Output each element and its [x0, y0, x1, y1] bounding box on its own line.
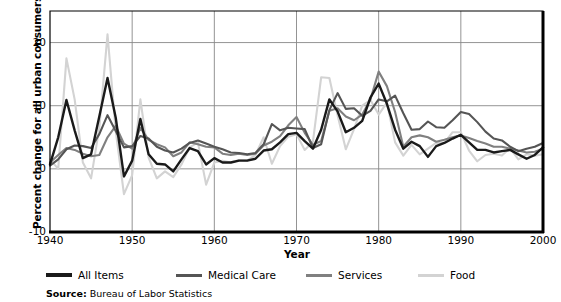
- legend-label: Medical Care: [208, 269, 276, 281]
- source-prefix: Source:: [46, 288, 87, 299]
- legend-swatch-icon: [306, 274, 332, 277]
- legend-label: All Items: [78, 269, 124, 281]
- x-axis-tick-label: 1950: [102, 234, 162, 246]
- legend-swatch-icon: [46, 273, 72, 276]
- source-note: Source: Bureau of Labor Statistics: [46, 288, 212, 299]
- source-text: Bureau of Labor Statistics: [90, 288, 212, 299]
- x-axis-tick-label: 1970: [267, 234, 327, 246]
- legend-item-services[interactable]: Services: [306, 269, 382, 281]
- x-axis-tick-label: 1990: [431, 234, 491, 246]
- x-axis-tick-label: 2000: [513, 234, 561, 246]
- legend-swatch-icon: [418, 274, 444, 277]
- x-axis-tick-label: 1980: [349, 234, 409, 246]
- legend-item-food[interactable]: Food: [418, 269, 475, 281]
- legend-item-medical-care[interactable]: Medical Care: [176, 269, 276, 281]
- x-axis-label: Year: [50, 248, 544, 260]
- chart-legend: All ItemsMedical CareServicesFood: [46, 266, 516, 284]
- legend-label: Food: [450, 269, 475, 281]
- legend-swatch-icon: [176, 274, 202, 277]
- cpi-line-chart: Percent change for all urban consumers 2…: [0, 0, 561, 302]
- x-axis-tick-label: 1940: [20, 234, 80, 246]
- legend-item-all-items[interactable]: All Items: [46, 269, 124, 281]
- legend-label: Services: [338, 269, 382, 281]
- x-axis-tick-label: 1960: [184, 234, 244, 246]
